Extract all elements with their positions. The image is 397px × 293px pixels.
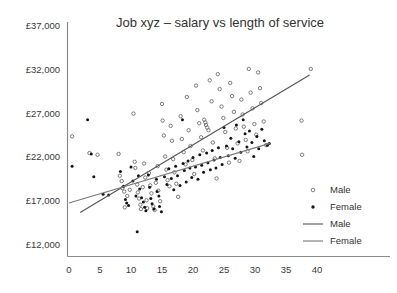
y-tick-label: £27,000 [8,108,60,119]
legend-marker-swatch [311,205,314,208]
data-point [238,159,241,162]
data-point [263,139,266,142]
data-point [117,152,120,155]
data-point [210,100,213,103]
data-point [252,155,255,158]
data-point [165,183,168,186]
legend-label: Female [330,235,362,246]
data-point [144,209,147,212]
data-point [249,91,252,94]
data-point [150,192,153,195]
data-point [232,110,235,113]
data-point [190,176,193,179]
data-point [201,149,204,152]
x-tick-label: 40 [305,264,329,275]
legend-marker-swatch [311,188,315,192]
data-point [191,158,194,161]
data-point [309,67,312,70]
data-point [167,167,170,170]
data-point [162,134,165,137]
x-tick-label: 35 [274,264,298,275]
data-point [224,130,227,133]
data-point [218,87,221,90]
data-point [154,181,157,184]
data-point [187,159,190,162]
data-point [176,195,179,198]
data-point [208,79,211,82]
data-points-group [70,67,312,233]
data-point [300,119,303,122]
y-tick-label: £12,000 [8,239,60,250]
data-point [229,137,232,140]
data-point [158,200,161,203]
data-point [196,108,199,111]
data-point [193,172,196,175]
data-point [90,152,93,155]
data-point [242,118,245,121]
data-point [185,180,188,183]
data-point [262,120,265,123]
data-point [234,127,237,130]
data-point [156,190,159,193]
data-point [169,124,172,127]
data-point [256,71,259,74]
data-point [242,125,245,128]
series-male [70,67,312,211]
data-point [175,182,178,185]
data-point [140,196,143,199]
data-point [250,141,253,144]
data-point [142,201,145,204]
data-point [216,72,219,75]
y-tick-label: £32,000 [8,64,60,75]
data-point [163,175,166,178]
data-point [96,153,99,156]
data-point [237,140,240,143]
data-point [174,165,177,168]
data-point [225,145,228,148]
data-point [138,187,141,190]
x-tick-label: 15 [150,264,174,275]
data-point [145,199,148,202]
data-point [194,84,197,87]
data-point [147,173,150,176]
y-tick-label: £37,000 [8,20,60,31]
x-tick-label: 30 [243,264,267,275]
data-point [158,205,161,208]
data-point [152,208,155,211]
data-point [235,123,238,126]
trendline-female [69,143,270,203]
data-point [187,129,190,132]
data-point [240,98,243,101]
x-tick-label: 20 [181,264,205,275]
data-point [214,166,217,169]
series-female [71,118,271,233]
y-tick-label: £22,000 [8,151,60,162]
data-point [180,137,183,140]
data-point [257,147,260,150]
data-point [141,185,144,188]
data-point [136,230,139,233]
data-point [170,177,173,180]
data-point [125,201,128,204]
data-point [245,145,248,148]
data-point [139,207,142,210]
data-point [163,155,166,158]
data-point [136,191,139,194]
data-point [220,105,223,108]
data-point [161,119,164,122]
data-point [192,156,195,159]
data-point [123,206,126,209]
data-point [149,197,152,200]
data-point [199,136,202,139]
trendline-male [80,75,309,213]
data-point [248,130,251,133]
data-point [182,162,185,165]
data-point [151,202,154,205]
data-point [92,175,95,178]
data-point [127,204,130,207]
data-point [227,161,230,164]
data-point [143,206,146,209]
data-point [215,177,218,180]
data-point [230,94,233,97]
data-point [244,138,247,141]
